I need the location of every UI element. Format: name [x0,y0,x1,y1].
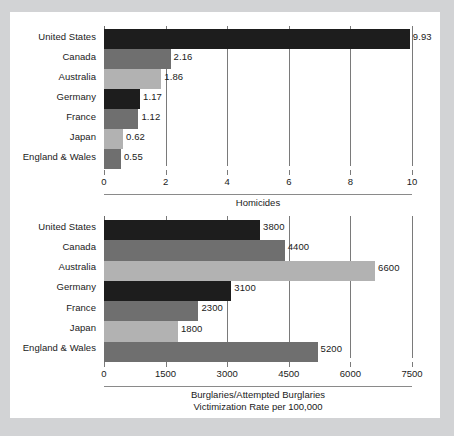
bar-row: 1.17 [104,86,412,106]
bar-row: 2.16 [104,46,412,66]
axis-tick [166,362,167,367]
bar-row: 2300 [104,297,412,317]
homicides-chart: United StatesCanadaAustraliaGermanyFranc… [10,12,440,208]
axis-tick [227,170,228,175]
bar-value-label: 0.62 [126,131,145,142]
axis-tick [289,362,290,367]
bar-row: 1.12 [104,106,412,126]
bar-row: 5200 [104,338,412,358]
axis-tick-label: 8 [348,176,353,187]
category-label: England & Wales [10,338,100,358]
bar [104,149,121,169]
bar [104,342,318,362]
homicides-axis-ticks [104,170,412,175]
bar-row: 0.55 [104,146,412,166]
category-label: Japan [10,317,100,337]
category-label: France [10,106,100,126]
gridline [412,26,413,166]
bar-row: 3100 [104,277,412,297]
burglaries-axis-rule [104,386,412,387]
homicides-plot-area: 9.932.161.861.171.120.620.55 [104,26,412,166]
burglaries-chart: United StatesCanadaAustraliaGermanyFranc… [10,208,440,418]
bar-row: 1.86 [104,66,412,86]
axis-tick [350,362,351,367]
homicides-bars: 9.932.161.861.171.120.620.55 [104,26,412,166]
axis-tick-label: 4 [225,176,230,187]
axis-tick-label: 1500 [155,368,176,379]
burglaries-bars: 3800440066003100230018005200 [104,216,412,358]
category-label: France [10,297,100,317]
bar-row: 3800 [104,216,412,236]
bar-row: 6600 [104,257,412,277]
axis-tick [166,170,167,175]
bar-value-label: 6600 [378,261,400,272]
axis-tick-label: 6 [286,176,291,187]
axis-tick-label: 2 [163,176,168,187]
homicides-axis-tick-labels: 0246810 [104,176,412,190]
axis-tick-label: 6000 [340,368,361,379]
burglaries-category-axis: United StatesCanadaAustraliaGermanyFranc… [10,216,100,358]
axis-tick [412,170,413,175]
homicides-axis-rule [104,194,412,195]
axis-tick [412,362,413,367]
axis-tick-label: 3000 [217,368,238,379]
bar-value-label: 9.93 [413,31,432,42]
bar-value-label: 3100 [234,281,256,292]
bar-value-label: 1800 [181,322,203,333]
category-label: United States [10,216,100,236]
axis-tick [104,170,105,175]
axis-tick [289,170,290,175]
category-label: United States [10,26,100,46]
bar-row: 4400 [104,236,412,256]
axis-tick-label: 10 [407,176,418,187]
bar-value-label: 3800 [263,221,285,232]
bar-row: 9.93 [104,26,412,46]
axis-tick [227,362,228,367]
gridline [412,216,413,358]
homicides-axis-title-text: Homicides [236,197,280,208]
axis-tick-label: 4500 [278,368,299,379]
bar-value-label: 0.55 [124,151,143,162]
category-label: Germany [10,86,100,106]
burglaries-plot-area: 3800440066003100230018005200 [104,216,412,358]
bar-value-label: 5200 [321,342,343,353]
category-label: Japan [10,126,100,146]
category-label: England & Wales [10,146,100,166]
burglaries-axis-title-line2: Victimization Rate per 100,000 [104,401,412,413]
burglaries-axis-tick-labels: 015003000450060007500 [104,368,412,382]
category-label: Australia [10,257,100,277]
axis-tick [350,170,351,175]
bar-value-label: 1.86 [164,71,183,82]
category-label: Canada [10,46,100,66]
burglaries-axis-title: Burglaries/Attempted Burglaries Victimiz… [104,389,412,413]
burglaries-axis-ticks [104,362,412,367]
bar-value-label: 4400 [288,241,310,252]
bar-row: 1800 [104,317,412,337]
category-label: Australia [10,66,100,86]
axis-tick [104,362,105,367]
figure-page: United StatesCanadaAustraliaGermanyFranc… [10,12,440,418]
bar-row: 0.62 [104,126,412,146]
bar-value-label: 1.12 [141,111,160,122]
axis-tick-label: 7500 [401,368,422,379]
category-label: Germany [10,277,100,297]
bar-value-label: 2300 [201,302,223,313]
category-label: Canada [10,236,100,256]
homicides-category-axis: United StatesCanadaAustraliaGermanyFranc… [10,26,100,166]
axis-tick-label: 0 [101,176,106,187]
burglaries-axis-title-line1: Burglaries/Attempted Burglaries [191,389,325,400]
axis-tick-label: 0 [101,368,106,379]
bar-value-label: 2.16 [174,51,193,62]
bar-value-label: 1.17 [143,91,162,102]
